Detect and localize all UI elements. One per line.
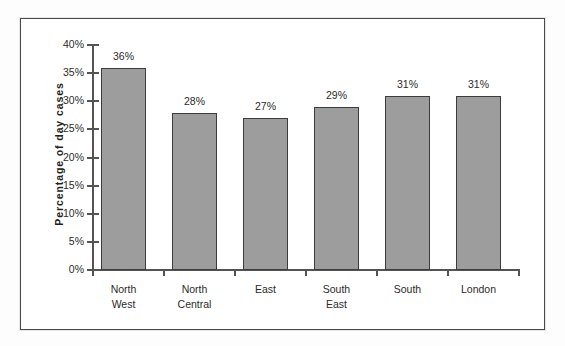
x-category-label-line1: London (448, 282, 509, 297)
y-tick-25 (87, 128, 99, 130)
x-tick-1 (163, 269, 165, 276)
bar-north-west[interactable] (101, 68, 146, 271)
x-category-label-line1: South (306, 282, 367, 297)
bar-value-north-central: 28% (172, 95, 217, 107)
y-tick-10 (87, 213, 99, 215)
bar-north-central[interactable] (172, 113, 217, 271)
x-category-label-south: South (377, 282, 438, 297)
x-category-label-east: East (235, 282, 296, 297)
bar-value-south: 31% (385, 78, 430, 90)
x-tick-2 (234, 269, 236, 276)
chart-screenshot: Percentage of day cases 40% 35% 30% 25% … (0, 0, 565, 346)
bar-south[interactable] (385, 96, 430, 270)
y-tick-40 (87, 44, 99, 46)
y-tick-15 (87, 185, 99, 187)
bar-london[interactable] (456, 96, 501, 270)
y-tick-label-40: 40% (44, 38, 84, 50)
x-category-label-north-central: North Central (164, 282, 225, 312)
y-tick-label-15: 15% (44, 179, 84, 191)
y-tick-35 (87, 72, 99, 74)
x-category-label-south-east: South East (306, 282, 367, 312)
x-tick-6 (518, 269, 520, 276)
bar-value-east: 27% (243, 100, 288, 112)
x-tick-5 (447, 269, 449, 276)
y-tick-label-5: 5% (44, 235, 84, 247)
y-tick-label-10: 10% (44, 207, 84, 219)
y-tick-20 (87, 157, 99, 159)
bar-chart-plot: Percentage of day cases 40% 35% 30% 25% … (0, 0, 565, 346)
x-category-label-line1: East (235, 282, 296, 297)
y-tick-label-25: 25% (44, 122, 84, 134)
x-tick-4 (376, 269, 378, 276)
x-category-label-line1: North (93, 282, 154, 297)
y-tick-label-30: 30% (44, 94, 84, 106)
y-tick-label-35: 35% (44, 66, 84, 78)
bar-east[interactable] (243, 118, 288, 270)
x-category-label-line2: West (93, 297, 154, 312)
x-tick-3 (305, 269, 307, 276)
x-category-label-line1: South (377, 282, 438, 297)
bar-value-london: 31% (456, 78, 501, 90)
x-tick-0 (92, 269, 94, 276)
y-tick-30 (87, 100, 99, 102)
y-tick-5 (87, 241, 99, 243)
bar-value-south-east: 29% (314, 89, 359, 101)
x-category-label-line2: Central (164, 297, 225, 312)
x-category-label-london: London (448, 282, 509, 297)
bar-south-east[interactable] (314, 107, 359, 270)
bar-value-north-west: 36% (101, 50, 146, 62)
y-tick-label-0: 0% (44, 263, 84, 275)
x-category-label-north-west: North West (93, 282, 154, 312)
x-category-label-line1: North (164, 282, 225, 297)
x-category-label-line2: East (306, 297, 367, 312)
y-tick-label-20: 20% (44, 151, 84, 163)
